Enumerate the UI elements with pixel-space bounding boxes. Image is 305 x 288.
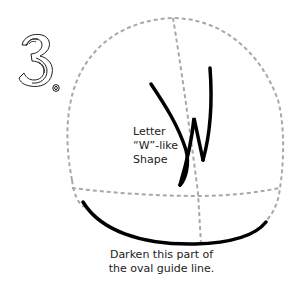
darken-instruction-label: Darken this part of the oval guide line. [0, 248, 305, 276]
w-shape-label-line-2: “W”-like [133, 139, 178, 153]
drawing-step-diagram: Letter “W”-like Shape Darken this part o… [0, 0, 305, 288]
w-shape-label: Letter “W”-like Shape [133, 125, 178, 167]
darkened-jaw-curve [83, 202, 266, 244]
step-number-outline [19, 34, 59, 91]
darken-instruction-line-1: Darken this part of [18, 248, 305, 262]
darken-instruction-line-2: the oval guide line. [18, 262, 305, 276]
w-shape-label-line-1: Letter [133, 125, 178, 139]
w-shape-label-line-3: Shape [133, 153, 178, 167]
